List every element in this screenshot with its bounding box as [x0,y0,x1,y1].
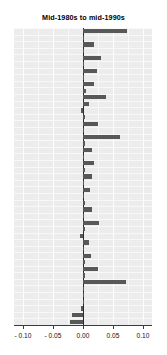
bar [83,240,89,244]
bar [83,201,85,205]
bar [83,115,85,119]
gridline-v-minor [128,28,129,325]
bar [83,214,84,218]
x-axis-tick [53,325,54,329]
bar [83,95,106,99]
gridline-v [23,28,24,325]
bar [83,194,84,198]
bar [83,56,101,60]
bar [83,260,85,264]
bar [83,247,84,251]
bar [83,227,85,231]
x-axis-tick [23,325,24,329]
bar [83,155,84,159]
bar [83,102,89,106]
gridline-v [53,28,54,325]
gridline-v [143,28,144,325]
bar [83,254,91,258]
bar [83,49,84,53]
bar-chart: Mid-1980s to mid-1990s - 0.10- 0.050.000… [0,0,167,355]
bar [83,188,90,192]
bar [83,148,92,152]
bar [83,161,94,165]
bar [83,75,84,79]
bar [83,62,84,66]
bar [83,300,84,304]
bar [83,89,86,93]
bar [83,181,84,185]
bar [83,280,126,284]
x-axis-tick [83,325,84,329]
bar [83,29,127,33]
bar [83,36,84,40]
bar [83,273,85,277]
bar [81,306,83,310]
bar [83,82,94,86]
bar [83,174,92,178]
bar [83,221,99,225]
bar [83,135,120,139]
bar [72,313,83,317]
bar [80,234,83,238]
bar [81,108,83,112]
bar [83,128,84,132]
bar [70,320,84,324]
bar [83,287,84,291]
bar [83,267,98,271]
plot-area [14,28,152,325]
x-axis-tick-label: 0.10 [123,331,163,340]
bar [83,293,84,297]
bar [83,69,97,73]
x-axis-tick [143,325,144,329]
bar [83,122,98,126]
bar [83,141,85,145]
chart-title: Mid-1980s to mid-1990s [0,13,167,22]
x-axis-tick [113,325,114,329]
gridline-v-minor [68,28,69,325]
bar [83,207,92,211]
bar [83,168,85,172]
bar [83,42,94,46]
gridline-v-minor [38,28,39,325]
